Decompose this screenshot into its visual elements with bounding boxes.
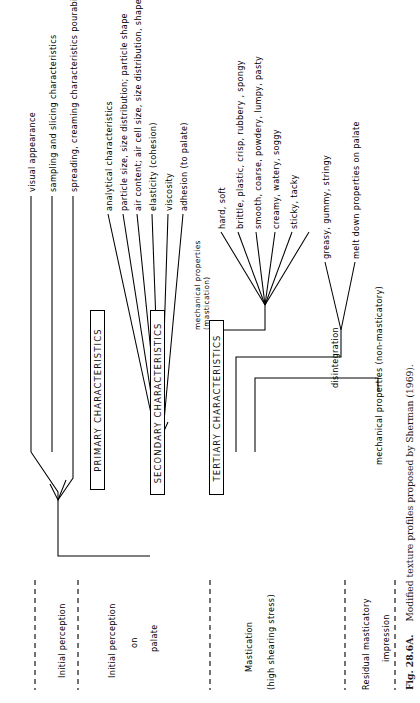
tertiary-characteristics-box[interactable]: TERTIARY CHARACTERISTICS: [209, 320, 224, 495]
non-masticatory-trunk: [255, 378, 378, 452]
primary-funnel-right: [58, 452, 73, 500]
primary-attribute-2: spreading, creaming characteristics pour…: [70, 0, 78, 192]
stage-label-initial-perception-palate-2: on: [130, 637, 138, 648]
primary-characteristics-label: PRIMARY CHARACTERISTICS: [93, 328, 103, 471]
stage-label-mastication-1: Mastication: [245, 622, 253, 672]
secondary-attribute-1: air content; air cell size, size distrib…: [134, 0, 142, 211]
primary-attribute-0: visual appearance: [28, 112, 36, 192]
tertiary-attribute-4: sticky, tacky: [290, 174, 298, 229]
secondary-attribute-3: viscosity: [165, 173, 173, 211]
tertiary-attribute-1: brittle, plastic, crisp, rubbery , spong…: [236, 60, 244, 229]
tertiary-branch-4: [265, 232, 275, 305]
figure-caption-text: Modified texture profiles proposed by Sh…: [404, 364, 415, 621]
stage-label-residual-1: Residual masticatory: [362, 598, 370, 690]
secondary-stem-5: [163, 214, 183, 432]
disintegration-attribute-1: melt down properties on palate: [352, 121, 360, 259]
tertiary-branch-6: [265, 232, 309, 305]
disintegration-branch-1: [325, 262, 341, 330]
secondary-characteristics-box[interactable]: SECONDARY CHARACTERISTICS: [150, 310, 165, 495]
tertiary-attribute-3: creamy, watery, soggy: [272, 129, 280, 229]
secondary-attribute-4: adhesion (to palate): [180, 122, 188, 211]
tertiary-attribute-2: smooth, coarse, powdery, lumpy, pasty: [254, 56, 262, 229]
stage-label-initial-perception-palate-3: palate: [150, 624, 158, 652]
figure-canvas: PRIMARY CHARACTERISTICS visual appearanc…: [0, 0, 420, 703]
secondary-characteristics-label: SECONDARY CHARACTERISTICS: [153, 322, 163, 483]
primary-trunk: [58, 500, 150, 556]
tertiary-branch-1: [221, 232, 265, 305]
tertiary-attribute-0: hard, soft: [218, 187, 226, 229]
figure-caption-number: Fig. 28.6A.: [404, 634, 415, 690]
disintegration-trunk: [236, 330, 341, 452]
secondary-attribute-0: particle size, size distribution; partic…: [120, 13, 128, 211]
disintegration-attribute-0: greasy, gummy, stringy: [322, 155, 330, 259]
tertiary-branch-5: [265, 232, 292, 305]
primary-characteristics-box[interactable]: PRIMARY CHARACTERISTICS: [90, 310, 105, 490]
disintegration-branch-2: [341, 262, 355, 330]
mechanical-mastication-line2: (mastication): [203, 276, 210, 330]
primary-attribute-1: sampling and slicing characteristics: [49, 34, 57, 192]
disintegration-label: disintegration: [331, 327, 339, 388]
stage-label-initial-perception-palate-1: Initial perception: [108, 603, 116, 678]
secondary-attribute-2: elasticity (cohesion): [149, 122, 157, 211]
stage-label-mastication-2: (high shearing stress): [267, 594, 275, 690]
tertiary-characteristics-label: TERTIARY CHARACTERISTICS: [212, 334, 222, 481]
secondary-group-label: analytical characteristics: [105, 101, 113, 211]
stage-label-initial-perception: Initial perception: [58, 603, 66, 678]
mechanical-mastication-line1: mechanical properties: [194, 240, 201, 330]
stage-label-residual-2: impression: [382, 614, 390, 662]
figure-caption: Fig. 28.6A. Modified texture profiles pr…: [404, 364, 415, 690]
non-masticatory-label: mechanical properties (non-masticatory): [375, 286, 383, 465]
